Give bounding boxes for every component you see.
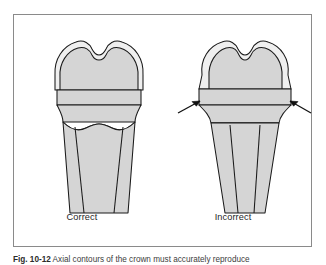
arrow-left-icon xyxy=(178,101,200,113)
correct-cervical-band xyxy=(57,90,141,105)
arrow-right-icon xyxy=(290,101,311,113)
diagram-correct xyxy=(55,41,143,213)
incorrect-crown-inner xyxy=(209,47,282,89)
correct-cervical-waist xyxy=(57,105,141,122)
incorrect-cervical-waist xyxy=(199,105,291,123)
incorrect-root xyxy=(211,123,279,213)
correct-root xyxy=(63,122,135,213)
correct-crown-inner xyxy=(60,47,138,90)
figure-caption-number: Fig. 10-12 xyxy=(13,255,51,264)
incorrect-cervical-band xyxy=(199,89,291,105)
figure-caption: Fig. 10-12 Axial contours of the crown m… xyxy=(13,255,313,265)
diagram-incorrect xyxy=(178,41,311,213)
diagram-label-incorrect: Incorrect xyxy=(185,212,281,222)
figure-caption-text: Axial contours of the crown must accurat… xyxy=(51,255,250,264)
diagram-label-correct: Correct xyxy=(34,212,130,222)
figure-root: Correct Incorrect Fig. 10-12 Axial conto… xyxy=(0,0,326,265)
